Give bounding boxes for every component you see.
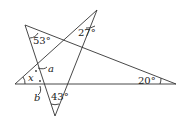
star-diagram: [0, 0, 186, 121]
angle-label-27: 27°: [78, 28, 96, 38]
angle-label-20: 20°: [138, 76, 156, 86]
dot-b: [39, 80, 41, 82]
angle-label-a: a: [48, 64, 54, 74]
arc-43: [51, 104, 59, 105]
arc-20: [160, 78, 161, 84]
arc-x: [23, 77, 25, 84]
dot-a: [35, 70, 37, 72]
angle-label-b: b: [34, 93, 40, 103]
angle-label-x: x: [28, 73, 34, 83]
angle-label-43: 43°: [51, 92, 69, 102]
angle-label-53: 53°: [33, 36, 51, 46]
